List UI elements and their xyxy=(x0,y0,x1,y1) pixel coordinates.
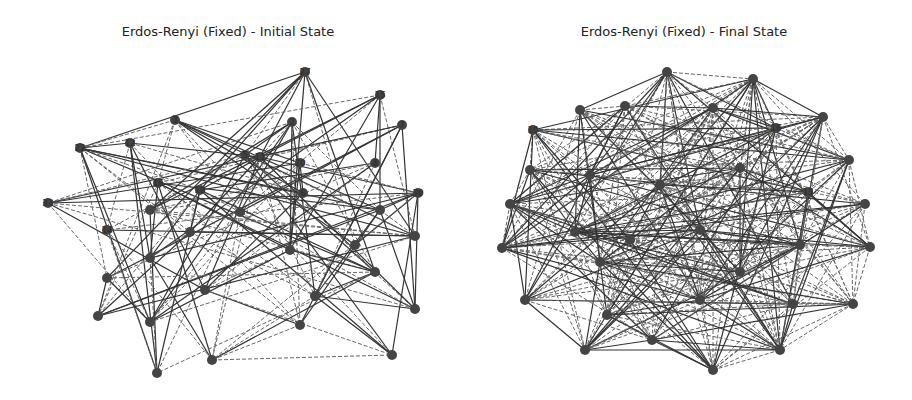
final-state-graph: 101613 xyxy=(456,0,912,400)
graph-node xyxy=(375,205,385,215)
node-label: 11 xyxy=(254,153,266,162)
node-label: 10 xyxy=(527,126,539,135)
edge xyxy=(48,203,150,322)
graph-node xyxy=(387,350,397,360)
node-label: 4 xyxy=(372,159,378,168)
graph-node xyxy=(795,240,805,250)
edge xyxy=(245,72,305,155)
graph-node xyxy=(585,170,595,180)
node-label: 3 xyxy=(172,116,178,125)
graph-node xyxy=(295,320,305,330)
edge xyxy=(740,192,808,272)
graph-node xyxy=(145,205,155,215)
graph-node xyxy=(848,299,858,309)
graph-node xyxy=(410,231,420,241)
edge xyxy=(660,185,793,304)
graph-node xyxy=(602,310,612,320)
graph-node xyxy=(200,285,210,295)
graph-node xyxy=(860,199,870,209)
graph-node xyxy=(185,227,195,237)
graph-node xyxy=(285,245,295,255)
node-label: 22 xyxy=(74,144,85,153)
graph-node xyxy=(818,112,828,122)
edge xyxy=(525,300,585,350)
edge xyxy=(212,325,300,360)
graph-node xyxy=(525,165,535,175)
edge xyxy=(853,204,865,304)
graph-node xyxy=(310,291,320,301)
graph-node xyxy=(520,295,530,305)
edge xyxy=(713,304,853,370)
edge xyxy=(530,79,753,170)
graph-node xyxy=(152,368,162,378)
graph-node xyxy=(497,243,507,253)
edge xyxy=(380,95,415,236)
node-label: 16 xyxy=(770,124,782,133)
edge xyxy=(392,193,418,355)
node-label: 7 xyxy=(399,121,405,130)
node-label: 16 xyxy=(152,179,164,188)
graph-node xyxy=(102,273,112,283)
graph-node xyxy=(865,242,875,252)
node-label: 2 xyxy=(289,118,295,127)
initial-state-panel: Erdos-Renyi (Fixed) - Initial State 2715… xyxy=(0,0,456,400)
graph-node xyxy=(145,253,155,263)
graph-node xyxy=(735,267,745,277)
graph-node xyxy=(647,335,657,345)
edge xyxy=(245,155,392,355)
graph-node xyxy=(595,257,605,267)
graph-node xyxy=(748,74,758,84)
node-label: 14 xyxy=(101,226,113,235)
node-label: 6 xyxy=(300,189,306,198)
node-label: 20 xyxy=(294,159,306,168)
node-label: 27 xyxy=(299,68,310,77)
edge xyxy=(107,230,212,360)
graph-node xyxy=(625,235,635,245)
edge xyxy=(533,130,849,160)
graph-node xyxy=(505,199,515,209)
edge xyxy=(753,79,823,117)
node-label: 13 xyxy=(802,188,813,197)
edge xyxy=(300,210,380,325)
edge xyxy=(853,247,870,304)
graph-node xyxy=(620,101,630,111)
graph-node xyxy=(695,295,705,305)
node-label: 12 xyxy=(124,139,135,148)
graph-node xyxy=(575,105,585,115)
graph-node xyxy=(788,299,798,309)
graph-node xyxy=(145,317,155,327)
edge xyxy=(212,355,392,360)
edge xyxy=(375,95,380,163)
node-label: 18 xyxy=(194,186,206,195)
graph-node xyxy=(207,355,217,365)
initial-state-graph: 2715723221251120430161863314 xyxy=(0,0,456,400)
edge xyxy=(157,190,200,373)
edge xyxy=(260,157,418,193)
graph-node xyxy=(370,267,380,277)
graph-node xyxy=(708,365,718,375)
graph-node xyxy=(410,304,420,314)
graph-node xyxy=(580,345,590,355)
edge xyxy=(713,350,780,370)
node-label: 33 xyxy=(42,199,53,208)
graph-node xyxy=(570,227,580,237)
graph-node xyxy=(708,103,718,113)
graph-node xyxy=(844,155,854,165)
edge xyxy=(740,272,780,350)
graph-node xyxy=(655,180,665,190)
edge xyxy=(713,108,823,117)
edge xyxy=(98,278,107,316)
graph-node xyxy=(662,67,672,77)
graph-node xyxy=(695,225,705,235)
graph-node xyxy=(350,240,360,250)
graph-node xyxy=(235,207,245,217)
edge xyxy=(107,278,150,322)
node-label: 15 xyxy=(374,91,386,100)
node-label: 30 xyxy=(412,189,424,198)
final-state-panel: Erdos-Renyi (Fixed) - Final State 101613 xyxy=(456,0,912,400)
graph-node xyxy=(93,311,103,321)
edge xyxy=(585,247,870,350)
graph-node xyxy=(775,345,785,355)
graph-node xyxy=(735,163,745,173)
node-label: 5 xyxy=(242,151,248,160)
